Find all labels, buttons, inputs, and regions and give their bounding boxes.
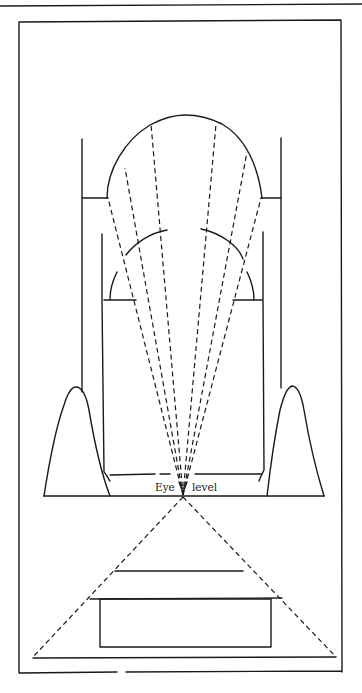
plan-building-rect <box>100 599 271 647</box>
hill-right <box>267 386 324 496</box>
level-label: level <box>192 481 218 493</box>
top-rule <box>0 4 362 6</box>
outer-frame <box>19 20 342 673</box>
inner-arch-right <box>201 229 243 259</box>
hill-left <box>44 387 110 496</box>
inner-floor <box>110 474 262 475</box>
inner-wall-left <box>102 234 110 481</box>
plan-triangle <box>33 497 336 658</box>
inner-arch-left <box>126 230 167 255</box>
perspective-diagram: Eye level <box>0 0 362 693</box>
small-arch-left <box>110 272 117 299</box>
eye-label: Eye <box>155 481 175 493</box>
sight-lines <box>108 124 261 495</box>
dome-outline <box>107 115 262 198</box>
small-arch-right <box>247 272 254 300</box>
inner-wall-right <box>259 232 264 481</box>
